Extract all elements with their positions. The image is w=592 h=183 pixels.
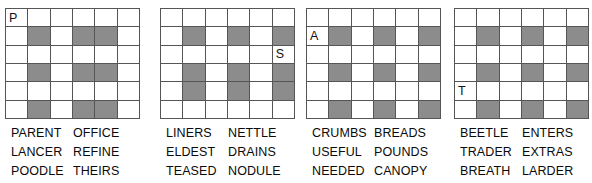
grid-cell-r1-c6[interactable] [419,9,441,27]
grid-cell-r4-c4[interactable] [73,64,95,82]
grid-cell-r3-c3[interactable] [51,46,73,64]
grid-cell-r1-c6[interactable] [567,9,589,27]
grid-cell-r6-c6[interactable] [419,101,441,119]
grid-cell-r4-c4[interactable] [522,64,544,82]
grid-cell-r1-c4[interactable] [374,9,396,27]
grid-cell-r5-c1[interactable] [161,82,183,100]
grid-cell-r2-c2[interactable] [183,27,205,45]
grid-cell-r3-c1[interactable] [6,46,28,64]
grid-cell-r5-c3[interactable] [51,82,73,100]
grid-cell-r6-c2[interactable] [183,101,205,119]
grid-cell-r2-c1[interactable] [455,27,477,45]
grid-cell-r4-c3[interactable] [500,64,522,82]
grid-cell-r2-c4[interactable] [228,27,250,45]
grid-cell-r6-c6[interactable] [567,101,589,119]
grid-cell-r5-c5[interactable] [544,82,566,100]
grid-cell-r6-c4[interactable] [522,101,544,119]
grid-cell-r6-c3[interactable] [500,101,522,119]
grid-cell-r3-c4[interactable] [522,46,544,64]
grid-cell-r6-c1[interactable] [161,101,183,119]
grid-cell-r3-c3[interactable] [352,46,374,64]
grid-cell-r5-c3[interactable] [500,82,522,100]
grid-cell-r1-c4[interactable] [522,9,544,27]
grid-cell-r6-c4[interactable] [73,101,95,119]
grid-cell-r3-c2[interactable] [477,46,499,64]
grid-cell-r2-c3[interactable] [51,27,73,45]
grid-cell-r3-c4[interactable] [374,46,396,64]
grid-cell-r1-c1[interactable]: P [6,9,28,27]
grid-cell-r5-c1[interactable] [6,82,28,100]
grid-cell-r4-c1[interactable] [161,64,183,82]
grid-cell-r5-c6[interactable] [273,82,295,100]
grid-cell-r3-c1[interactable] [455,46,477,64]
grid-cell-r5-c5[interactable] [95,82,117,100]
grid-cell-r3-c2[interactable] [329,46,351,64]
grid-cell-r6-c5[interactable] [95,101,117,119]
grid-cell-r6-c2[interactable] [477,101,499,119]
grid-cell-r6-c1[interactable] [307,101,329,119]
grid-cell-r5-c2[interactable] [477,82,499,100]
grid-cell-r6-c2[interactable] [28,101,50,119]
grid-cell-r4-c5[interactable] [95,64,117,82]
grid-cell-r5-c2[interactable] [28,82,50,100]
grid-cell-r5-c3[interactable] [206,82,228,100]
grid-cell-r1-c5[interactable] [396,9,418,27]
grid-cell-r2-c5[interactable] [396,27,418,45]
grid-cell-r6-c5[interactable] [396,101,418,119]
grid-cell-r3-c5[interactable] [544,46,566,64]
grid-cell-r3-c5[interactable] [396,46,418,64]
grid-cell-r5-c2[interactable] [183,82,205,100]
grid-cell-r6-c3[interactable] [352,101,374,119]
grid-cell-r5-c6[interactable] [567,82,589,100]
grid-cell-r5-c1[interactable]: T [455,82,477,100]
grid-cell-r1-c1[interactable] [307,9,329,27]
grid-cell-r2-c5[interactable] [250,27,272,45]
grid-cell-r4-c6[interactable] [273,64,295,82]
grid-cell-r1-c3[interactable] [352,9,374,27]
grid-cell-r4-c3[interactable] [352,64,374,82]
grid-cell-r6-c1[interactable] [6,101,28,119]
grid-cell-r1-c1[interactable] [455,9,477,27]
grid-cell-r5-c1[interactable] [307,82,329,100]
grid-cell-r2-c1[interactable]: A [307,27,329,45]
grid-cell-r2-c2[interactable] [477,27,499,45]
grid-cell-r3-c3[interactable] [500,46,522,64]
grid-cell-r1-c1[interactable] [161,9,183,27]
grid-cell-r4-c1[interactable] [455,64,477,82]
grid-cell-r3-c1[interactable] [161,46,183,64]
grid-cell-r5-c5[interactable] [250,82,272,100]
grid-cell-r3-c4[interactable] [228,46,250,64]
grid-cell-r1-c5[interactable] [544,9,566,27]
grid-cell-r2-c4[interactable] [522,27,544,45]
grid-cell-r2-c2[interactable] [28,27,50,45]
grid-cell-r1-c4[interactable] [228,9,250,27]
grid-cell-r5-c4[interactable] [73,82,95,100]
grid-cell-r3-c3[interactable] [206,46,228,64]
grid-cell-r2-c6[interactable] [567,27,589,45]
grid-cell-r3-c1[interactable] [307,46,329,64]
grid-cell-r4-c5[interactable] [396,64,418,82]
grid-cell-r1-c2[interactable] [28,9,50,27]
grid-cell-r2-c4[interactable] [73,27,95,45]
grid-cell-r3-c6[interactable] [567,46,589,64]
grid-cell-r6-c3[interactable] [206,101,228,119]
grid-cell-r5-c4[interactable] [374,82,396,100]
grid-cell-r6-c5[interactable] [544,101,566,119]
grid-cell-r6-c2[interactable] [329,101,351,119]
grid-cell-r3-c4[interactable] [73,46,95,64]
grid-cell-r4-c2[interactable] [28,64,50,82]
grid-cell-r1-c3[interactable] [51,9,73,27]
grid-cell-r3-c5[interactable] [95,46,117,64]
grid-cell-r6-c3[interactable] [51,101,73,119]
grid-cell-r2-c6[interactable] [419,27,441,45]
grid-cell-r3-c2[interactable] [183,46,205,64]
grid-cell-r1-c3[interactable] [206,9,228,27]
grid-cell-r6-c6[interactable] [273,101,295,119]
grid-cell-r1-c5[interactable] [95,9,117,27]
grid-cell-r1-c2[interactable] [477,9,499,27]
grid-cell-r2-c2[interactable] [329,27,351,45]
grid-cell-r4-c5[interactable] [250,64,272,82]
grid-cell-r2-c3[interactable] [352,27,374,45]
grid-cell-r3-c6[interactable] [419,46,441,64]
grid-cell-r5-c6[interactable] [118,82,140,100]
